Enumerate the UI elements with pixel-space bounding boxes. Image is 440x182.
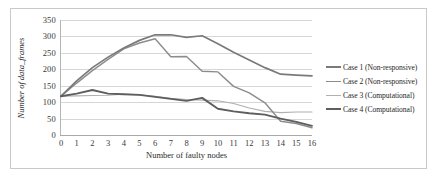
series-line: [61, 94, 312, 112]
y-tick-label: 50: [2, 115, 56, 124]
plot-area: [61, 20, 312, 135]
legend-swatch-icon: [326, 95, 341, 96]
y-tick-label: 100: [2, 98, 56, 107]
y-tick-label: 250: [2, 49, 56, 58]
x-tick-label: 7: [163, 138, 179, 148]
x-axis-line: [60, 135, 312, 136]
chart-figure: Number of data_frames 050100150200250300…: [0, 0, 440, 182]
x-tick-label: 11: [226, 138, 242, 148]
x-tick-label: 0: [53, 138, 69, 148]
y-tick-label: 200: [2, 65, 56, 74]
series-line: [61, 39, 312, 128]
legend-label: Case 2 (Non-responsive): [343, 77, 417, 86]
legend-swatch-icon: [326, 66, 341, 68]
x-tick-label: 1: [69, 138, 85, 148]
x-tick-label: 4: [116, 138, 132, 148]
x-tick-label: 6: [147, 138, 163, 148]
legend-label: Case 3 (Computational): [343, 91, 414, 100]
x-tick-label: 3: [100, 138, 116, 148]
legend-swatch-icon: [326, 108, 341, 110]
x-tick-label: 14: [273, 138, 289, 148]
x-tick-label: 2: [84, 138, 100, 148]
x-tick-label: 9: [194, 138, 210, 148]
x-tick-label: 5: [131, 138, 147, 148]
legend-swatch-icon: [326, 81, 341, 82]
y-axis-ticks: 050100150200250300350: [0, 20, 56, 135]
legend-item[interactable]: Case 2 (Non-responsive): [326, 74, 426, 88]
x-tick-label: 15: [288, 138, 304, 148]
x-tick-label: 12: [241, 138, 257, 148]
x-tick-label: 13: [257, 138, 273, 148]
x-tick-label: 8: [179, 138, 195, 148]
y-tick-label: 150: [2, 82, 56, 91]
y-tick-label: 0: [2, 131, 56, 140]
y-tick-label: 350: [2, 16, 56, 25]
x-axis-ticks: 012345678910111213141516: [61, 138, 312, 150]
x-axis-title: Number of faulty nodes: [61, 150, 312, 160]
x-tick-label: 10: [210, 138, 226, 148]
chart-legend: Case 1 (Non-responsive)Case 2 (Non-respo…: [326, 60, 426, 116]
legend-item[interactable]: Case 3 (Computational): [326, 88, 426, 102]
legend-item[interactable]: Case 4 (Computational): [326, 102, 426, 116]
series-lines: [61, 20, 312, 135]
legend-label: Case 1 (Non-responsive): [343, 63, 417, 72]
y-tick-label: 300: [2, 32, 56, 41]
legend-label: Case 4 (Computational): [343, 105, 414, 114]
x-tick-label: 16: [304, 138, 320, 148]
legend-item[interactable]: Case 1 (Non-responsive): [326, 60, 426, 74]
